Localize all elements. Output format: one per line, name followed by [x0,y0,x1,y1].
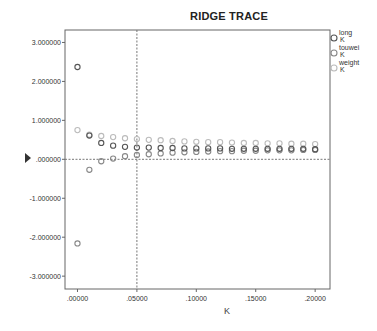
data-point [146,145,151,150]
legend-sublabel: K [340,66,345,73]
y-tick-label: -1.000000 [29,195,61,202]
y-axis: 3.0000002.0000001.000000.000000-1.000000… [29,39,65,280]
data-point [170,138,175,143]
y-tick-label: .000000 [36,156,61,163]
legend-sublabel: K [340,51,345,58]
row-marker-icon [25,153,31,163]
data-point [206,140,211,145]
x-tick-label: .10000 [186,295,208,302]
legend-marker-icon [331,50,337,56]
y-tick-label: 3.000000 [32,39,61,46]
data-point [229,140,234,145]
x-axis-label: K [224,306,230,316]
data-point [158,145,163,150]
data-point [158,151,163,156]
data-point [253,140,258,145]
y-tick-label: 2.000000 [32,78,61,85]
legend-marker-icon [331,35,337,41]
data-point [111,143,116,148]
x-axis: .00000.05000.10000.15000.20000 [67,289,326,302]
legend: longKtouweiKweightK [331,29,360,73]
data-point [122,144,127,149]
data-point [146,137,151,142]
x-tick-label: .15000 [245,295,267,302]
x-tick-label: .20000 [304,295,326,302]
legend-sublabel: K [340,36,345,43]
data-point [99,140,104,145]
data-point [146,152,151,157]
data-point [87,167,92,172]
data-point [122,136,127,141]
data-point [289,141,294,146]
x-tick-label: .05000 [126,295,148,302]
data-point [217,140,222,145]
data-point [75,64,80,69]
data-point [122,154,127,159]
data-point [301,141,306,146]
legend-marker-icon [331,65,337,71]
data-point [182,139,187,144]
data-point [241,140,246,145]
data-point [277,141,282,146]
data-point [75,241,80,246]
data-points [75,64,318,246]
y-tick-label: -2.000000 [29,234,61,241]
data-point [158,138,163,143]
data-point [75,127,80,132]
reference-lines [65,30,330,289]
data-point [194,139,199,144]
y-tick-label: 1.000000 [32,117,61,124]
data-point [265,141,270,146]
ridge-trace-chart: 3.0000002.0000001.000000.000000-1.000000… [0,0,377,331]
legend-label: touwei [339,44,360,51]
x-tick-label: .00000 [67,295,89,302]
y-tick-label: -3.000000 [29,273,61,280]
data-point [111,135,116,140]
data-point [111,156,116,161]
data-point [99,133,104,138]
data-point [194,146,199,151]
data-point [313,142,318,147]
